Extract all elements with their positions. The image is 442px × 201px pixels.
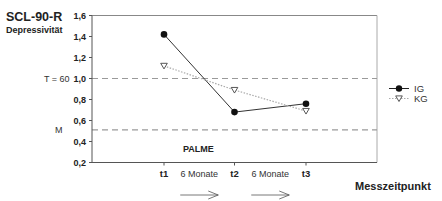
palme-annotation: PALME (183, 144, 214, 154)
y-tick-label: 1,4 (73, 32, 86, 42)
legend: IGKG (389, 83, 428, 104)
legend-label: KG (414, 93, 428, 104)
reference-line-label: T = 60 (44, 74, 70, 84)
x-tick-label: t1 (160, 168, 169, 179)
y-tick-label: 0,6 (73, 116, 86, 126)
y-tick-label: 0,8 (73, 95, 86, 105)
x-tick-label: t2 (230, 168, 238, 179)
data-point-ig (303, 100, 310, 107)
series-line-ig (164, 34, 306, 112)
interval-label: 6 Monate (251, 169, 289, 179)
x-axis: t1t2t3 (92, 163, 377, 180)
y-tick-label: 1,6 (73, 11, 86, 21)
data-point-kg (303, 108, 310, 114)
x-axis-label: Messzeitpunkt (355, 180, 431, 192)
y-tick-label: 1,2 (73, 53, 86, 63)
data-point-kg (231, 87, 238, 93)
chart-subtitle: Depressivität (6, 25, 63, 35)
data-point-ig (231, 109, 238, 116)
chart-title: SCL-90-R (6, 10, 62, 24)
chart: SCL-90-R Depressivität T = 60M 0,20,40,6… (0, 0, 442, 201)
reference-lines: T = 60M (44, 74, 377, 135)
y-tick-label: 0,2 (73, 158, 86, 168)
series-group (161, 31, 310, 115)
reference-line-label: M (55, 125, 63, 135)
data-point-ig (161, 31, 168, 38)
legend-marker-ig (396, 85, 402, 91)
interval-label: 6 Monate (180, 169, 218, 179)
y-tick-label: 0,4 (73, 137, 86, 147)
y-axis: 0,20,40,60,81,01,21,41,6 (73, 11, 92, 168)
data-point-kg (161, 63, 168, 69)
y-tick-label: 1,0 (73, 74, 86, 84)
x-tick-label: t3 (302, 168, 310, 179)
